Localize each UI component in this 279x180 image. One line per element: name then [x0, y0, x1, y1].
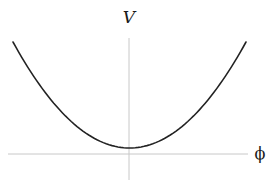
y-axis-label: V [123, 7, 137, 27]
potential-plot: V ϕ [0, 0, 279, 180]
x-axis-label: ϕ [255, 144, 266, 163]
